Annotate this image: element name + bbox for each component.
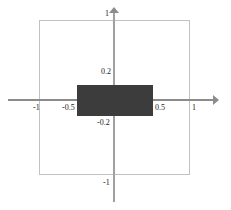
coordinate-diagram: -1 -0.5 0.5 1 1 0.2 -0.2 -1 (0, 0, 231, 210)
x-tick-label-neg1: -1 (33, 104, 40, 112)
y-tick-label-pos1: 1 (105, 10, 109, 18)
x-tick-label-pos1: 1 (192, 104, 196, 112)
y-tick-label-neg1: -1 (103, 179, 110, 187)
x-axis-arrow-icon (213, 95, 219, 105)
y-tick-label-pos02: 0.2 (101, 68, 111, 76)
x-tick-label-neg05: -0.5 (62, 104, 75, 112)
inner-filled-rectangle (77, 85, 153, 116)
x-tick-label-pos05: 0.5 (155, 104, 165, 112)
y-axis-arrow-icon (109, 7, 119, 13)
y-tick-label-neg02: -0.2 (97, 119, 110, 127)
